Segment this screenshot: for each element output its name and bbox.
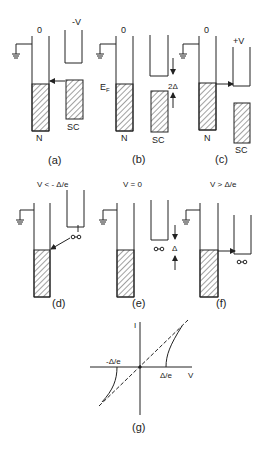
caption-b: (b) bbox=[132, 153, 145, 165]
iv-curve-negative bbox=[102, 367, 117, 402]
n-filled-states bbox=[32, 84, 49, 131]
ground-icon bbox=[16, 210, 34, 224]
pos-gap-label: Δ/e bbox=[160, 371, 173, 380]
zero-label: 0 bbox=[204, 25, 209, 35]
n-filled-states bbox=[200, 250, 218, 297]
cooper-pair-icon bbox=[237, 260, 247, 264]
ground-icon bbox=[99, 210, 117, 224]
sc-conduction-band bbox=[234, 215, 251, 254]
voltage-label: +V bbox=[233, 36, 244, 46]
condition-e: V = 0 bbox=[123, 180, 142, 189]
ground-icon bbox=[12, 44, 32, 58]
caption-d: (d) bbox=[52, 297, 65, 309]
sc-conduction-band bbox=[150, 35, 168, 76]
n-filled-states bbox=[199, 83, 216, 130]
condition-d: V < - Δ/e bbox=[37, 180, 69, 189]
condition-f: V > Δ/e bbox=[210, 180, 237, 189]
n-label: N bbox=[36, 133, 43, 143]
voltage-label: -V bbox=[72, 17, 81, 27]
sc-conduction-band bbox=[67, 190, 84, 227]
caption-c: (c) bbox=[215, 153, 228, 165]
caption-f: (f) bbox=[216, 297, 226, 309]
panel-f bbox=[182, 203, 251, 297]
sc-conduction-band bbox=[65, 30, 82, 63]
ground-icon bbox=[182, 210, 200, 224]
n-label: N bbox=[121, 133, 128, 143]
caption-e: (e) bbox=[132, 297, 145, 309]
sc-filled-states bbox=[234, 103, 250, 143]
caption-a: (a) bbox=[48, 154, 61, 166]
sc-conduction-band bbox=[233, 47, 250, 86]
tunneling-arrow bbox=[51, 238, 70, 249]
iv-curve-positive bbox=[166, 326, 182, 367]
cooper-pair-icon bbox=[71, 235, 81, 239]
panel-g-iv-curve bbox=[90, 320, 192, 415]
n-label: N bbox=[204, 133, 211, 143]
panel-e bbox=[99, 200, 175, 297]
panel-b bbox=[96, 35, 173, 132]
sc-filled-states bbox=[151, 91, 168, 132]
zero-label: 0 bbox=[121, 25, 126, 35]
tunneling-diagram: -V 0 SC N (a) 0 EF 2Δ N SC (b) 0 +V N SC… bbox=[0, 0, 264, 449]
sc-label: SC bbox=[152, 135, 165, 145]
i-axis-label: I bbox=[134, 321, 136, 330]
n-filled-states bbox=[116, 84, 133, 131]
panel-c bbox=[179, 36, 250, 143]
cooper-pair-icon bbox=[154, 247, 164, 251]
v-axis-label: V bbox=[188, 371, 194, 380]
sc-label: SC bbox=[235, 145, 248, 155]
fermi-level-label: EF bbox=[100, 82, 110, 93]
sc-label: SC bbox=[67, 122, 80, 132]
ground-icon bbox=[179, 44, 199, 58]
caption-g: (g) bbox=[132, 421, 145, 433]
sc-conduction-band bbox=[151, 200, 168, 240]
sc-filled-states bbox=[66, 80, 83, 119]
neg-gap-label: -Δ/e bbox=[106, 357, 121, 366]
gap-label: Δ bbox=[172, 244, 178, 253]
n-filled-states bbox=[34, 250, 50, 297]
ground-icon bbox=[96, 44, 116, 58]
panel-a bbox=[12, 30, 83, 131]
zero-label: 0 bbox=[37, 25, 42, 35]
gap-label: 2Δ bbox=[168, 82, 178, 91]
panel-d bbox=[16, 190, 84, 297]
n-filled-states bbox=[117, 250, 134, 297]
